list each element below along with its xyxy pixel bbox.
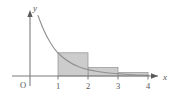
x-tick-label-4: 4 bbox=[146, 81, 151, 91]
origin-label: O bbox=[20, 80, 26, 90]
x-tick-label-2: 2 bbox=[86, 81, 90, 91]
riemann-rectangle-2 bbox=[88, 68, 118, 76]
x-tick-label-3: 3 bbox=[116, 81, 120, 91]
figure-container: y x O 1 2 3 4 bbox=[0, 0, 176, 102]
x-axis-label: x bbox=[162, 72, 167, 82]
riemann-sum-figure: y x O 1 2 3 4 bbox=[0, 0, 176, 102]
x-tick-label-1: 1 bbox=[56, 81, 60, 91]
function-curve bbox=[38, 16, 149, 76]
y-axis-arrowhead bbox=[27, 10, 32, 17]
y-axis-label: y bbox=[32, 3, 37, 13]
x-axis-arrowhead bbox=[151, 73, 158, 78]
